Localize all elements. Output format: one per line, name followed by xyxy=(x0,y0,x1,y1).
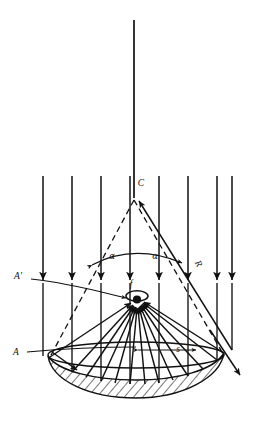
label-rim-A: A xyxy=(12,347,19,357)
figure-root: C f A' A R s α α xyxy=(0,0,264,424)
label-angle-left: α xyxy=(109,251,115,261)
reflector-diagram: C f A' A R s α α xyxy=(0,0,264,424)
label-apex-C: C xyxy=(138,178,145,188)
focus-point xyxy=(133,295,141,303)
label-offset-s: s xyxy=(176,344,180,354)
label-angle-right: α xyxy=(152,251,158,261)
label-aperture-A-prime: A' xyxy=(13,271,23,281)
